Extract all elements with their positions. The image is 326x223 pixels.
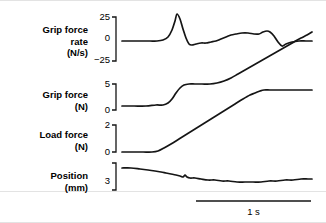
trace-grip-force-rate (122, 14, 312, 46)
panel-label-grip-force-rate: Grip force rate (N/s) (43, 24, 88, 59)
axis-brackets (112, 17, 116, 190)
axis-bracket-load-force (112, 125, 116, 152)
axis-bracket-grip-force-rate (112, 17, 116, 61)
scalebar-label: 1 s (194, 206, 314, 217)
tick-label-grip-force-rate-1: 0 (84, 33, 110, 43)
trace-lines (122, 14, 312, 182)
tick-label-load-force-0: 2 (84, 120, 110, 130)
trace-load-force (122, 90, 312, 152)
panel-label-position: Position (mm) (51, 170, 88, 193)
axis-bracket-position (112, 163, 116, 190)
tick-label-grip-force-0: 5 (84, 79, 110, 89)
grip-force-figure: Grip force rate (N/s)Grip force (N)Load … (0, 0, 326, 223)
tick-label-load-force-1: 0 (84, 147, 110, 157)
tick-label-grip-force-1: 0 (84, 105, 110, 115)
axis-bracket-grip-force (112, 84, 116, 110)
tick-label-grip-force-rate-2: −25 (84, 55, 110, 65)
tick-label-grip-force-rate-0: 25 (84, 12, 110, 22)
trace-position (122, 168, 312, 182)
panel-label-load-force: Load force (N) (39, 129, 88, 152)
panel-label-grip-force: Grip force (N) (43, 89, 88, 112)
tick-label-position-0: 3 (84, 176, 110, 186)
trace-grip-force (122, 32, 312, 106)
